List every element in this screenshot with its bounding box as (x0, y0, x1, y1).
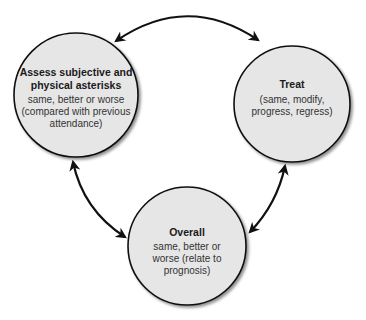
node-overall: Overall same, better or worse (relate to… (140, 226, 234, 277)
arrow-overall-assess (73, 162, 125, 237)
node-treat-title: Treat (250, 78, 334, 91)
arrow-treat-overall (250, 166, 285, 232)
node-overall-title: Overall (140, 226, 234, 239)
node-assess-body: same, better or worse (compared with pre… (14, 94, 138, 131)
node-treat-body: (same, modify, progress, regress) (250, 94, 334, 118)
arrow-assess-treat (116, 16, 258, 41)
node-overall-body: same, better or worse (relate to prognos… (140, 241, 234, 278)
node-assess: Assess subjective and physical asterisks… (14, 66, 138, 130)
node-assess-title: Assess subjective and physical asterisks (14, 66, 138, 92)
node-treat: Treat (same, modify, progress, regress) (250, 78, 334, 118)
